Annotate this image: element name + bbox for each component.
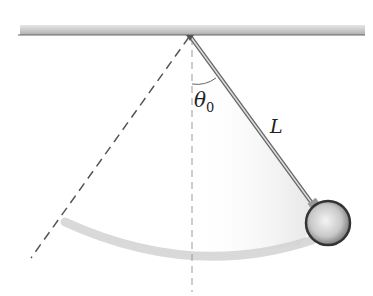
pendulum-bob — [306, 201, 350, 245]
pendulum-diagram: θ0 L — [0, 0, 373, 296]
extreme-position-line — [31, 37, 189, 258]
theta-subscript: 0 — [206, 100, 214, 115]
angle-label: θ0 — [194, 88, 214, 115]
sweep-shading — [192, 36, 320, 260]
pendulum-figure — [0, 0, 373, 296]
theta-symbol: θ — [194, 88, 206, 112]
length-label: L — [270, 115, 283, 137]
ceiling — [20, 25, 365, 35]
